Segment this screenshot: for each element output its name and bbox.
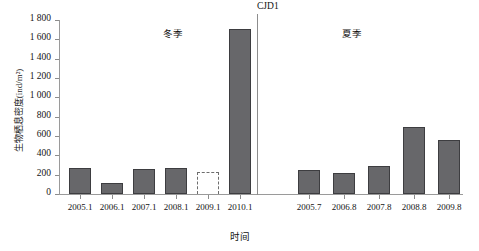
x-tick-mark	[80, 195, 81, 199]
y-tick-label: 1 800	[30, 13, 51, 23]
bar-2005.1	[69, 168, 91, 194]
y-tick-mark	[55, 97, 59, 98]
bar-2005.7	[298, 170, 320, 194]
y-tick-mark	[55, 194, 59, 195]
y-tick-mark	[55, 155, 59, 156]
x-axis-title: 时间	[0, 229, 479, 243]
bar-2006.8	[333, 173, 355, 194]
y-tick-mark	[55, 39, 59, 40]
y-tick-mark	[55, 78, 59, 79]
bar-2009.1	[197, 172, 219, 194]
y-tick-mark	[55, 59, 59, 60]
y-tick-label: 1 600	[30, 32, 51, 42]
x-tick-mark	[379, 195, 380, 199]
y-tick-label: 400	[37, 148, 51, 158]
bar-2009.8	[438, 140, 460, 194]
winter-group-label: 冬季	[163, 26, 183, 40]
summer-group-label: 夏季	[342, 26, 362, 40]
x-tick-label: 2009.8	[426, 202, 472, 212]
x-axis-line	[59, 194, 463, 195]
y-tick-mark	[55, 175, 59, 176]
x-tick-mark	[449, 195, 450, 199]
y-tick-mark	[55, 117, 59, 118]
y-tick-label: 0	[46, 187, 51, 197]
bar-2007.1	[133, 169, 155, 194]
x-tick-mark	[144, 195, 145, 199]
bar-2008.8	[403, 127, 425, 194]
y-tick-label: 600	[37, 129, 51, 139]
y-tick-label: 800	[37, 110, 51, 120]
station-label: CJD1	[257, 1, 279, 11]
y-axis-title: 生物栖息密度(ind/m²)	[12, 31, 25, 191]
plot-area: 02004006008001 0001 2001 4001 6001 800 2…	[59, 20, 463, 195]
group-separator-line	[257, 14, 258, 195]
y-tick-label: 1 200	[30, 71, 51, 81]
x-tick-mark	[344, 195, 345, 199]
y-axis-line	[59, 20, 60, 195]
x-tick-mark	[208, 195, 209, 199]
x-tick-mark	[414, 195, 415, 199]
x-tick-mark	[309, 195, 310, 199]
y-tick-mark	[55, 20, 59, 21]
bar-2006.1	[101, 183, 123, 194]
y-tick-mark	[55, 136, 59, 137]
x-tick-label: 2010.1	[217, 202, 263, 212]
chart-figure: 生物栖息密度(ind/m²) 02004006008001 0001 2001 …	[0, 0, 479, 251]
bar-2008.1	[165, 168, 187, 194]
x-tick-mark	[240, 195, 241, 199]
x-tick-mark	[176, 195, 177, 199]
y-tick-label: 200	[37, 168, 51, 178]
bar-2010.1	[229, 29, 251, 194]
x-tick-mark	[112, 195, 113, 199]
bar-2007.8	[368, 166, 390, 194]
y-tick-label: 1 400	[30, 52, 51, 62]
y-tick-label: 1 000	[30, 90, 51, 100]
